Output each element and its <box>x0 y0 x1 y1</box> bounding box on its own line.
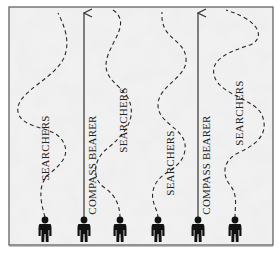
searchers-label-3: SEARCHERS <box>164 130 176 195</box>
searchers-label-1: SEARCHERS <box>39 115 51 180</box>
searchers-label-2: SEARCHERS <box>117 87 129 152</box>
search-pattern-diagram: SEARCHERS COMPASS BEARER SEARCHERS SEARC… <box>0 0 279 255</box>
compass-bearer-label-1: COMPASS BEARER <box>86 115 98 215</box>
compass-bearer-label-2: COMPASS BEARER <box>200 115 212 215</box>
searchers-label-4: SEARCHERS <box>233 80 245 145</box>
